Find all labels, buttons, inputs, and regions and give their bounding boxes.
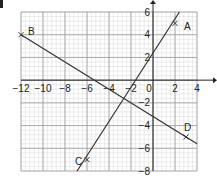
x-tick-label: −8 bbox=[59, 83, 71, 94]
point-label-a: A bbox=[184, 21, 191, 32]
coordinate-graph: −12−10−8−6−4−2024642−2−4−6−8 ABCD bbox=[0, 0, 217, 182]
y-tick-label: −6 bbox=[139, 143, 151, 154]
tick-labels: −12−10−8−6−4−2024642−2−4−6−8 bbox=[13, 7, 201, 177]
y-axis-arrow-icon bbox=[150, 0, 156, 4]
x-tick-label: 4 bbox=[194, 83, 200, 94]
point-label-d: D bbox=[184, 122, 191, 133]
x-tick-label: −10 bbox=[35, 83, 52, 94]
point-label-c: C bbox=[75, 156, 82, 167]
y-tick-label: −4 bbox=[139, 120, 151, 131]
x-tick-label: −12 bbox=[13, 83, 30, 94]
x-tick-label: 0 bbox=[146, 83, 152, 94]
y-tick-label: 4 bbox=[144, 29, 150, 40]
cross-marker-icon bbox=[184, 134, 189, 139]
x-tick-label: 2 bbox=[172, 83, 178, 94]
y-tick-label: −2 bbox=[139, 97, 151, 108]
x-axis-arrow-icon bbox=[213, 77, 217, 83]
y-tick-label: 6 bbox=[144, 7, 150, 18]
x-tick-label: −6 bbox=[81, 83, 93, 94]
y-tick-label: −8 bbox=[139, 166, 151, 177]
point-label-b: B bbox=[28, 26, 35, 37]
